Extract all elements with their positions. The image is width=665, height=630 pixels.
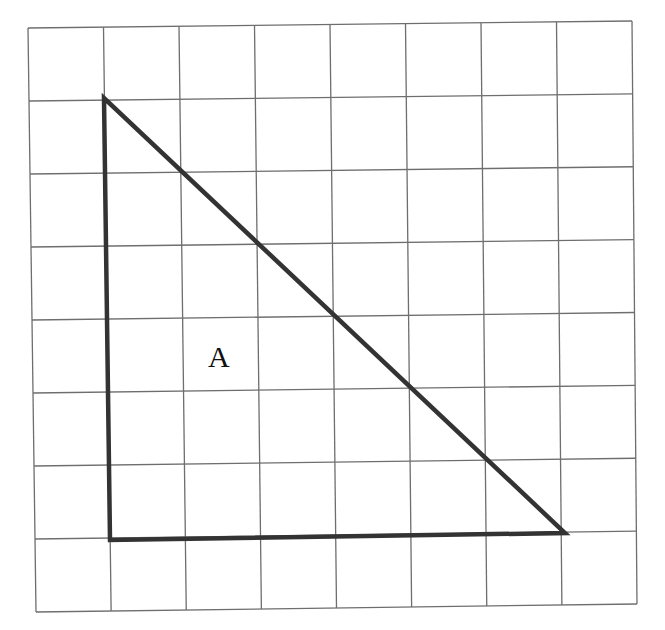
shape-label: A xyxy=(208,340,230,373)
grid-diagram: A xyxy=(0,0,665,630)
